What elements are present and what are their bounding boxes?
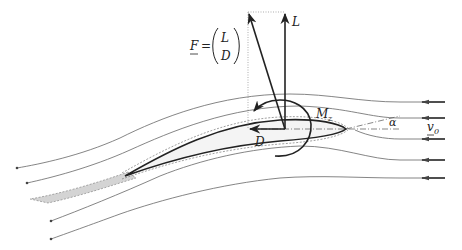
inflow-arrows <box>422 102 445 178</box>
drag-label: D <box>254 135 265 149</box>
wake-region <box>30 172 136 203</box>
matrix-lift-label: L <box>220 31 229 45</box>
svg-text:z: z <box>327 114 333 123</box>
svg-text:0: 0 <box>434 127 439 136</box>
force-equation: F = L D <box>189 28 239 64</box>
outflow-arrowheads <box>16 167 53 241</box>
force-vector-label: F <box>189 39 199 53</box>
airfoil <box>122 117 349 179</box>
svg-text:F: F <box>189 39 199 53</box>
streamlines <box>17 94 445 239</box>
svg-text:v: v <box>427 120 434 134</box>
lift-label: L <box>291 15 300 29</box>
resultant-force-arrow <box>249 14 285 129</box>
svg-text:M: M <box>315 107 329 121</box>
equals-sign: = <box>201 39 211 53</box>
airfoil-diagram: F = L D L D M z α v 0 <box>0 0 462 250</box>
angle-of-attack-label: α <box>389 116 397 129</box>
freestream-velocity-label: v 0 <box>427 120 439 136</box>
moment-label: M z <box>315 107 333 123</box>
matrix-drag-label: D <box>220 49 231 63</box>
